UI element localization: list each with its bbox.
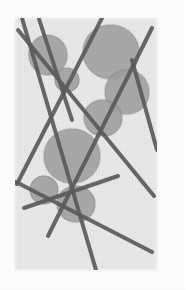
- geometric-figure: [0, 0, 186, 290]
- figure-container: Overlapping circles and intersecting lin…: [0, 0, 186, 290]
